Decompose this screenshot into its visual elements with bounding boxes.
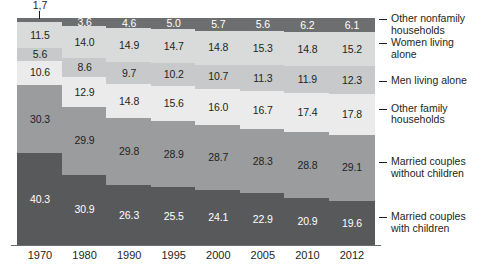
bar-value-label: 19.6: [342, 218, 362, 229]
callout-1970: 1,7: [17, 0, 63, 20]
bar-value-label: 8.6: [77, 62, 91, 73]
bar-segment: 19.6: [329, 201, 375, 245]
bar-segment: 30.3: [17, 85, 63, 154]
bar-column-2010: 6.214.811.917.428.820.9: [284, 18, 330, 245]
bar-segment: 15.3: [240, 31, 286, 66]
bar-value-label: 28.7: [208, 152, 228, 163]
bar-value-label: 20.9: [297, 216, 317, 227]
bar-segment: 14.7: [151, 29, 197, 62]
bar-value-label: 15.6: [164, 98, 184, 109]
bar-value-label: 14.7: [164, 41, 184, 52]
bar-value-label: 16.0: [208, 102, 228, 113]
legend-item-3: Other family households: [379, 103, 448, 126]
legend-item-0: Other nonfamily households: [379, 13, 465, 36]
bar-segment: 15.2: [329, 32, 375, 66]
bar-value-label: 16.7: [253, 105, 273, 116]
bar-segment: 29.9: [62, 107, 108, 175]
bar-value-label: 14.8: [297, 44, 317, 55]
bar-column-1970: 11.55.610.630.340.3: [17, 18, 63, 245]
bar-segment: 17.8: [329, 94, 375, 134]
bar-value-label: 15.2: [342, 44, 362, 55]
x-axis-tick-1980: 1980: [62, 250, 108, 261]
stacked-bar-chart: 11.55.610.630.340.33.614.08.612.929.930.…: [0, 0, 489, 274]
bar-value-label: 17.4: [297, 107, 317, 118]
bar-value-label: 6.1: [345, 20, 359, 31]
bar-segment: 6.1: [329, 18, 375, 32]
bar-segment: 9.7: [106, 62, 152, 84]
x-axis-line: [11, 245, 381, 246]
bar-stack: 11.55.610.630.340.3: [17, 18, 63, 245]
bar-segment: 30.9: [62, 175, 108, 245]
bar-value-label: 28.8: [297, 160, 317, 171]
bar-value-label: 29.1: [342, 162, 362, 173]
bar-segment: 14.8: [195, 31, 241, 65]
bar-value-label: 26.3: [119, 210, 139, 221]
bar-value-label: 29.8: [119, 146, 139, 157]
bar-column-2012: 6.115.212.317.829.119.6: [329, 18, 375, 245]
legend-label: Married couples with children: [391, 211, 466, 234]
legend-label: Married couples without children: [391, 156, 466, 179]
bar-column-1980: 3.614.08.612.929.930.9: [62, 18, 108, 245]
bar-value-label: 30.3: [30, 114, 50, 125]
bar-stack: 6.115.212.317.829.119.6: [329, 18, 375, 245]
legend-item-1: Women living alone: [379, 37, 454, 60]
bar-segment: 28.7: [195, 125, 241, 190]
bar-value-label: 3.6: [77, 18, 91, 26]
bar-segment: 10.2: [151, 63, 197, 86]
bar-segment: 5.6: [17, 48, 63, 61]
bar-value-label: 4.6: [122, 18, 136, 28]
x-axis-tick-1970: 1970: [17, 250, 63, 261]
bar-value-label: 14.8: [208, 42, 228, 53]
bar-segment: 16.7: [240, 91, 286, 129]
bar-segment: 14.0: [62, 26, 108, 58]
bar-segment: 11.3: [240, 65, 286, 91]
bar-value-label: 11.5: [30, 30, 49, 41]
bar-segment: 12.3: [329, 66, 375, 94]
bar-value-label: 25.5: [164, 211, 184, 222]
bar-value-label: 9.7: [122, 68, 136, 79]
bar-segment: 10.7: [195, 65, 241, 89]
legend-item-4: Married couples without children: [379, 156, 466, 179]
callout-leader-line: [39, 11, 40, 19]
bar-segment: 29.8: [106, 118, 152, 186]
bar-value-label: 24.1: [208, 212, 228, 223]
legend-connector-line: [379, 19, 387, 20]
bar-value-label: 14.0: [75, 37, 95, 48]
bar-value-label: 6.2: [300, 20, 314, 31]
bar-segment: 20.9: [284, 198, 330, 245]
bar-value-label: 40.3: [30, 194, 50, 205]
bar-segment: 25.5: [151, 187, 197, 245]
bar-segment: 29.1: [329, 135, 375, 201]
legend-label: Men living alone: [391, 75, 467, 87]
x-axis-tick-2012: 2012: [329, 250, 375, 261]
bar-segment: 3.6: [62, 18, 108, 26]
x-axis-tick-1990: 1990: [106, 250, 152, 261]
bar-value-label: 29.9: [75, 135, 95, 146]
bar-value-label: 22.9: [253, 214, 273, 225]
bar-segment: 8.6: [62, 58, 108, 78]
bar-value-label: 10.7: [208, 71, 228, 82]
plot-area: 11.55.610.630.340.33.614.08.612.929.930.…: [17, 18, 375, 245]
x-axis-tick-1995: 1995: [151, 250, 197, 261]
bar-value-label: 28.3: [253, 156, 273, 167]
bar-value-label: 5.6: [33, 49, 47, 60]
bar-segment: 11.5: [17, 22, 63, 48]
bar-segment: 28.3: [240, 129, 286, 193]
bar-segment: 6.2: [284, 18, 330, 32]
bar-segment: 28.8: [284, 132, 330, 197]
legend-connector-line: [379, 109, 387, 110]
bar-segment: 14.8: [106, 84, 152, 118]
bar-segment: 10.6: [17, 61, 63, 85]
bar-value-label: 5.6: [256, 19, 270, 30]
bar-value-label: 10.6: [30, 67, 50, 78]
legend-label: Women living alone: [391, 37, 454, 60]
legend-item-2: Men living alone: [379, 75, 467, 87]
bar-value-label: 12.3: [342, 75, 362, 86]
bar-value-label: 11.9: [298, 74, 317, 85]
x-axis-tick-2010: 2010: [284, 250, 330, 261]
bar-segment: 12.9: [62, 77, 108, 106]
legend-label: Other family households: [391, 103, 448, 126]
bar-segment: 5.0: [151, 18, 197, 29]
bar-column-1995: 5.014.710.215.628.925.5: [151, 18, 197, 245]
legend-item-5: Married couples with children: [379, 211, 466, 234]
